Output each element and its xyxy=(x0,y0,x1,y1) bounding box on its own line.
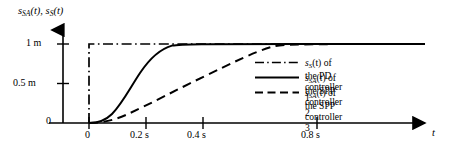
legend-sub-2: SA xyxy=(309,77,317,85)
y-tick-label-1m: 1 m xyxy=(26,38,41,48)
legend-swatch-solid-icon xyxy=(255,70,299,85)
legend-sub-3: SA xyxy=(309,92,317,100)
x-tick-label-0: 0 xyxy=(85,130,90,140)
y-axis-title: sSA(t), sS(t) xyxy=(18,6,63,17)
legend-swatch-dashed-icon xyxy=(255,85,299,100)
step-response-chart: sSA(t), sS(t) 1 m 0.5 m 0 0 0.2 s 0.4 s … xyxy=(0,0,469,149)
x-tick-label-0.4: 0.4 s xyxy=(187,130,206,140)
chart-plot-area xyxy=(0,0,469,149)
y-axis-title-end: (t) xyxy=(53,5,63,16)
legend-label-spp-controller-3: sSA(t) of the SPP controller 3 xyxy=(305,87,342,133)
x-tick-label-0.2: 0.2 s xyxy=(130,130,149,140)
y-axis-title-mid: (t), xyxy=(30,5,45,16)
y-tick-label-0.5m: 0.5 m xyxy=(13,78,36,88)
x-axis-title: t xyxy=(432,128,435,139)
legend-swatch-dash-dot-icon xyxy=(255,55,299,70)
y-tick-label-0: 0 xyxy=(46,116,51,126)
